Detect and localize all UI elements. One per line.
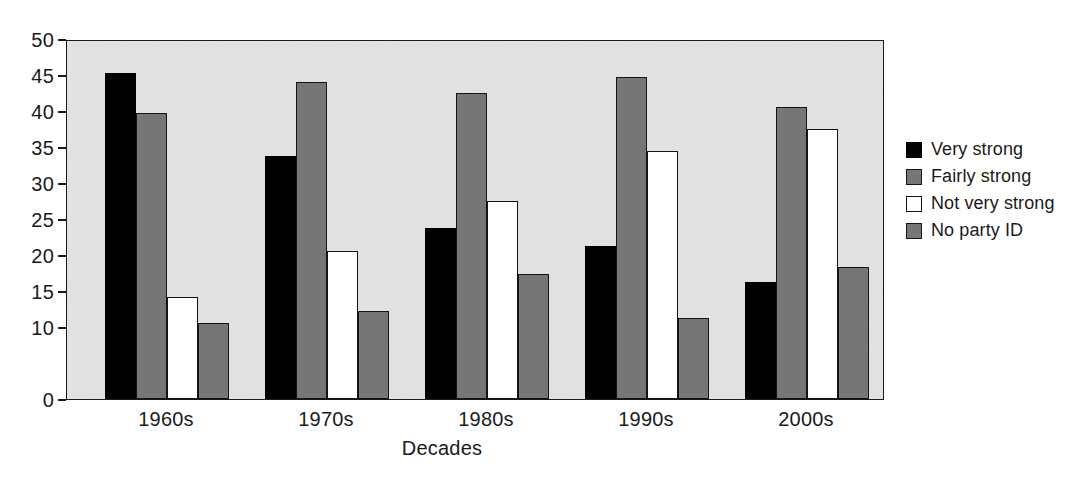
bar bbox=[518, 274, 549, 399]
bar bbox=[265, 156, 296, 399]
bar bbox=[647, 151, 678, 399]
y-axis-tick-mark bbox=[58, 255, 66, 257]
x-axis-labels: 1960s1970s1980s1990s2000s bbox=[0, 408, 1091, 438]
legend-swatch-icon bbox=[906, 223, 922, 239]
y-axis-tick-label: 30 bbox=[31, 171, 54, 197]
bar bbox=[105, 73, 136, 399]
y-axis-tick-mark bbox=[58, 183, 66, 185]
bar bbox=[167, 297, 198, 399]
legend-swatch-icon bbox=[906, 142, 922, 158]
y-axis-tick-mark bbox=[58, 399, 66, 401]
y-axis-tick-mark bbox=[58, 75, 66, 77]
y-axis-tick-label: 45 bbox=[31, 63, 54, 89]
bar bbox=[358, 311, 389, 399]
legend-item-label: No party ID bbox=[931, 220, 1023, 241]
legend-swatch-icon bbox=[906, 196, 922, 212]
bar bbox=[616, 77, 647, 399]
y-axis-tick-label: 15 bbox=[31, 279, 54, 305]
y-axis-tick-mark bbox=[58, 147, 66, 149]
y-axis-tick-mark bbox=[58, 219, 66, 221]
legend-swatch-icon bbox=[906, 169, 922, 185]
x-axis-label: 1990s bbox=[618, 408, 674, 431]
bar bbox=[487, 201, 518, 399]
y-axis-tick-label: 50 bbox=[31, 27, 54, 53]
legend-item: No party ID bbox=[906, 217, 1086, 244]
bar bbox=[425, 228, 456, 399]
bar bbox=[296, 82, 327, 399]
x-axis-label: 1980s bbox=[458, 408, 514, 431]
legend-item: Not very strong bbox=[906, 190, 1086, 217]
bar bbox=[198, 323, 229, 399]
legend-item: Fairly strong bbox=[906, 163, 1086, 190]
legend-item-label: Fairly strong bbox=[931, 166, 1031, 187]
y-axis-tick-mark bbox=[58, 327, 66, 329]
bar bbox=[136, 113, 167, 399]
legend-item-label: Not very strong bbox=[931, 193, 1055, 214]
plot-area bbox=[66, 40, 884, 400]
x-axis-label: 1960s bbox=[138, 408, 194, 431]
bar bbox=[838, 267, 869, 399]
bar-chart: 0101520253035404550 1960s1970s1980s1990s… bbox=[0, 0, 1091, 480]
bar bbox=[776, 107, 807, 399]
bar bbox=[327, 251, 358, 399]
x-axis-label: 1970s bbox=[298, 408, 354, 431]
y-axis-tick-label: 35 bbox=[31, 135, 54, 161]
y-axis-tick-mark bbox=[58, 111, 66, 113]
y-axis-tick-mark bbox=[58, 39, 66, 41]
bar bbox=[745, 282, 776, 399]
y-axis-tick-label: 40 bbox=[31, 99, 54, 125]
bar bbox=[678, 318, 709, 399]
bar bbox=[456, 93, 487, 399]
y-axis-tick-mark bbox=[58, 291, 66, 293]
y-axis-tick-label: 25 bbox=[31, 207, 54, 233]
y-axis-tick-label: 10 bbox=[31, 315, 54, 341]
bar bbox=[585, 246, 616, 399]
legend-item: Very strong bbox=[906, 136, 1086, 163]
y-axis-tick-label: 20 bbox=[31, 243, 54, 269]
chart-legend: Very strongFairly strongNot very strongN… bbox=[906, 136, 1086, 244]
x-axis-title: Decades bbox=[0, 437, 884, 460]
legend-item-label: Very strong bbox=[931, 139, 1023, 160]
bar bbox=[807, 129, 838, 399]
x-axis-label: 2000s bbox=[778, 408, 834, 431]
